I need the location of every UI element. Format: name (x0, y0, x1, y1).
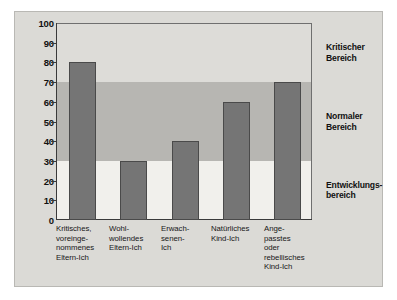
bar-1 (69, 62, 96, 220)
y-tick-100 (51, 23, 56, 24)
x-category-line: Natürliches (211, 224, 249, 234)
x-category-label-5: Ange-passtesoderrebellischesKind-Ich (264, 224, 305, 272)
x-category-line: rebellisches (264, 253, 305, 263)
x-category-label-2: Wohl-wollendesEltern-Ich (109, 224, 143, 253)
plot-area (56, 23, 312, 220)
bar-4 (223, 102, 250, 220)
x-axis-category-labels: Kritisches,voreinge-nommenesEltern-IchWo… (56, 224, 322, 284)
y-tick-40 (51, 141, 56, 142)
x-category-line: Wohl- (109, 224, 143, 234)
x-category-line: Kind-Ich (264, 262, 305, 272)
band-label-line: Kritischer (326, 42, 365, 53)
x-category-line: Kind-Ich (211, 234, 249, 244)
x-category-line: voreinge- (56, 234, 94, 244)
x-category-line: Erwach- (161, 224, 189, 234)
y-tick-0 (51, 220, 56, 221)
y-tick-10 (51, 200, 56, 201)
y-tick-90 (51, 43, 56, 44)
band-label-line: Bereich (326, 122, 363, 133)
x-category-line: nommenes (56, 243, 94, 253)
y-axis-labels: 1009080706050403020100 (26, 23, 54, 220)
plot-top-border (56, 23, 312, 24)
bar-5 (274, 82, 301, 220)
x-category-line: oder (264, 243, 305, 253)
x-category-line: wollendes (109, 234, 143, 244)
x-category-line: Ich (161, 243, 189, 253)
band-label-line: Bereich (326, 53, 365, 64)
x-category-line: Eltern-Ich (109, 243, 143, 253)
y-tick-70 (51, 82, 56, 83)
band-legend: KritischerBereichNormalerBereichEntwickl… (320, 23, 384, 220)
band-label-3: Entwicklungs-bereich (326, 180, 382, 201)
x-category-line: senen- (161, 234, 189, 244)
y-tick-80 (51, 62, 56, 63)
x-category-label-3: Erwach-senen-Ich (161, 224, 189, 253)
y-tick-20 (51, 181, 56, 182)
x-category-line: Eltern-Ich (56, 253, 94, 263)
band-label-line: Entwicklungs- (326, 180, 382, 191)
y-tick-30 (51, 161, 56, 162)
band-label-line: bereich (326, 190, 382, 201)
plot-right-border (311, 23, 312, 220)
x-category-label-4: NatürlichesKind-Ich (211, 224, 249, 243)
x-category-line: Kritisches, (56, 224, 94, 234)
x-category-line: passtes (264, 234, 305, 244)
band-label-line: Normaler (326, 111, 363, 122)
x-category-line: Ange- (264, 224, 305, 234)
bar-2 (120, 161, 147, 220)
y-tick-50 (51, 122, 56, 123)
band-label-2: NormalerBereich (326, 111, 363, 132)
bar-3 (172, 141, 199, 220)
y-tick-60 (51, 102, 56, 103)
band-label-1: KritischerBereich (326, 42, 365, 63)
x-category-label-1: Kritisches,voreinge-nommenesEltern-Ich (56, 224, 94, 262)
chart-panel: 1009080706050403020100 Kritisches,vorein… (14, 11, 383, 287)
y-axis-line (56, 23, 57, 220)
